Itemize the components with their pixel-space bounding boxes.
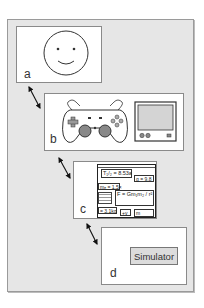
formula-velocity: +v (120, 209, 131, 216)
panel-label-b: b (50, 132, 57, 146)
formula-m: m (134, 209, 154, 217)
monitor-icon (134, 101, 178, 143)
panel-label-d: d (110, 266, 117, 280)
panel-label-a: a (24, 67, 31, 81)
panel-a: a (16, 26, 102, 83)
panel-d: Simulator d (101, 227, 187, 285)
formula-weight: = 3.1kg (98, 207, 117, 214)
panel-b: b (44, 93, 184, 151)
gamepad-icon (60, 98, 130, 148)
simulator-button[interactable]: Simulator (130, 247, 178, 265)
formula-gravity: g = 9.8 (134, 175, 154, 182)
formula-collage: T₁/₂ = 8.53a g = 9.8 mₑ = 1.5× F = Gm₁m₂… (97, 164, 156, 218)
formula-gravitation: F = Gm₁m₂ / r² (115, 190, 154, 206)
formula-mass: mₑ = 1.5× (98, 183, 120, 190)
panel-label-c: c (80, 202, 86, 216)
formula-half-life: T₁/₂ = 8.53a (101, 169, 132, 178)
panel-c: T₁/₂ = 8.53a g = 9.8 mₑ = 1.5× F = Gm₁m₂… (73, 161, 157, 219)
